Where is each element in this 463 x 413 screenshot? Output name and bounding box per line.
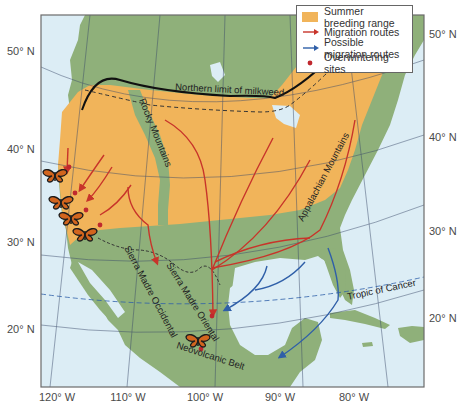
legend-item-breeding-range: Summer breeding range — [302, 9, 407, 25]
lat-label-left-30: 30° N — [7, 236, 35, 248]
lat-label-right-30: 30° N — [429, 225, 457, 237]
red-arrow-icon — [302, 28, 324, 36]
lat-label-left-50: 50° N — [7, 45, 35, 57]
lat-label-right-50: 50° N — [429, 28, 457, 40]
lon-label-100: 100° W — [187, 391, 223, 403]
orange-swatch-icon — [302, 12, 324, 22]
lat-label-right-20: 20° N — [429, 312, 457, 324]
legend: Summer breeding range Migration routes P… — [296, 5, 413, 73]
lat-label-left-40: 40° N — [7, 143, 35, 155]
blue-arrow-icon — [302, 44, 324, 52]
lon-label-120: 120° W — [39, 391, 75, 403]
legend-item-overwintering: Overwintering sites — [302, 56, 407, 72]
lon-label-110: 110° W — [110, 391, 145, 403]
lat-label-right-40: 40° N — [429, 131, 457, 143]
legend-label: Overwintering sites — [324, 51, 407, 75]
red-dot-icon — [302, 59, 324, 67]
lon-label-90: 90° W — [265, 391, 295, 403]
lon-label-80: 80° W — [339, 391, 369, 403]
legend-label: Summer breeding range — [324, 5, 407, 29]
lat-label-left-20: 20° N — [7, 323, 35, 335]
